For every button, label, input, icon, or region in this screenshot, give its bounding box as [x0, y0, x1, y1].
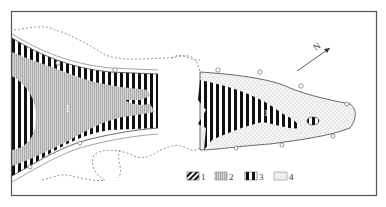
legend-label-3: 3 — [259, 172, 264, 182]
legend-label-2: 2 — [229, 172, 234, 182]
zone-label-right: II — [262, 109, 268, 118]
legend-swatch-2 — [215, 172, 227, 180]
legend-swatch-3 — [245, 172, 257, 180]
geologic-sketch-map: I II N 1 2 3 4 — [0, 0, 386, 207]
legend-label-1: 1 — [201, 172, 206, 182]
zone-label-left: I — [66, 103, 69, 114]
legend-label-4: 4 — [289, 172, 294, 182]
legend-swatch-1 — [187, 172, 199, 180]
legend-swatch-4 — [274, 172, 287, 180]
